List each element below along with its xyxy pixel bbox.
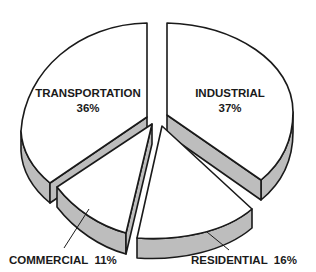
label-commercial: COMMERCIAL 11% <box>9 254 117 266</box>
label-residential: RESIDENTIAL 16% <box>191 254 297 266</box>
label-industrial-name: INDUSTRIAL <box>195 87 265 99</box>
label-industrial-pct: 37% <box>218 102 241 114</box>
label-transportation-pct: 36% <box>76 102 99 114</box>
pie-chart: TRANSPORTATION 36% INDUSTRIAL 37% COMMER… <box>0 0 316 272</box>
pie-chart-graphic: TRANSPORTATION 36% INDUSTRIAL 37% COMMER… <box>0 0 316 272</box>
label-transportation-name: TRANSPORTATION <box>35 87 141 99</box>
